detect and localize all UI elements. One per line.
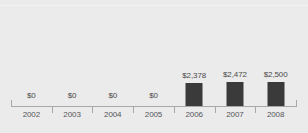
category-column[interactable]: $02003: [52, 0, 93, 133]
bar[interactable]: [226, 82, 243, 106]
category-column[interactable]: $02002: [11, 0, 52, 133]
x-axis-end-cap: [296, 100, 297, 107]
category-column[interactable]: $2,4722007: [215, 0, 256, 133]
bar[interactable]: [186, 83, 203, 106]
plot-area: $02002$02003$02004$02005$2,3782006$2,472…: [0, 0, 308, 133]
bar-value-label: $0: [27, 91, 36, 100]
bar-value-label: $0: [149, 91, 158, 100]
bar-value-label: $0: [108, 91, 117, 100]
bar-chart: $02002$02003$02004$02005$2,3782006$2,472…: [0, 0, 308, 133]
category-label: 2003: [63, 110, 80, 119]
category-label: 2005: [145, 110, 162, 119]
category-label: 2002: [23, 110, 40, 119]
category-column[interactable]: $2,5002008: [255, 0, 296, 133]
category-column[interactable]: $02004: [92, 0, 133, 133]
category-label: 2006: [185, 110, 202, 119]
bar[interactable]: [267, 82, 284, 106]
bar-value-label: $2,378: [182, 71, 206, 80]
category-label: 2007: [226, 110, 243, 119]
category-column[interactable]: $02005: [133, 0, 174, 133]
category-label: 2008: [267, 110, 284, 119]
category-label: 2004: [104, 110, 121, 119]
category-column[interactable]: $2,3782006: [174, 0, 215, 133]
bar-value-label: $2,500: [264, 70, 288, 79]
bar-value-label: $0: [68, 91, 77, 100]
bar-value-label: $2,472: [223, 70, 247, 79]
